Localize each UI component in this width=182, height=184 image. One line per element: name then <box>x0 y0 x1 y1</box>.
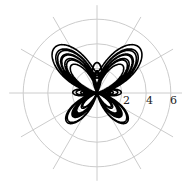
radial-tick-label: 2 <box>123 94 130 107</box>
polar-chart: 2 4 6 <box>0 0 182 184</box>
radial-tick-label: 4 <box>146 94 153 107</box>
radial-tick-label: 6 <box>170 94 177 107</box>
